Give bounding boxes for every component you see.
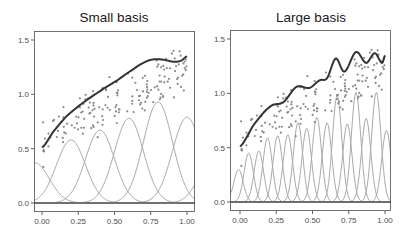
data-point	[383, 64, 385, 66]
data-point	[354, 84, 356, 86]
x-tick-label: 1.00	[179, 217, 195, 226]
data-point	[314, 93, 316, 95]
data-point	[367, 86, 369, 88]
basis-curve	[231, 151, 393, 202]
data-point	[162, 65, 164, 67]
data-point	[92, 124, 94, 126]
data-point	[365, 80, 367, 82]
data-point	[299, 123, 301, 125]
x-tick-label: 0.75	[341, 216, 357, 225]
data-point	[114, 115, 116, 117]
panel-border	[231, 31, 391, 211]
data-point	[260, 105, 262, 107]
data-point	[295, 135, 297, 137]
x-tick-label: 0.00	[232, 216, 248, 225]
data-point	[355, 88, 357, 90]
data-point	[307, 108, 309, 110]
data-point	[296, 105, 298, 107]
data-point	[116, 94, 118, 96]
data-point	[342, 100, 344, 102]
y-tick-label: 1.0	[18, 90, 30, 99]
panel-title: Small basis	[79, 10, 148, 25]
data-point	[383, 68, 385, 70]
y-tick-label: 0.0	[18, 199, 30, 208]
data-point	[251, 118, 253, 120]
data-point	[364, 66, 366, 68]
data-point	[361, 67, 363, 69]
data-point	[287, 100, 289, 102]
data-point	[185, 69, 187, 71]
data-point	[372, 69, 374, 71]
data-point	[132, 111, 134, 113]
data-point	[283, 93, 285, 95]
data-point	[82, 110, 84, 112]
data-point	[288, 126, 290, 128]
data-point	[78, 116, 80, 118]
data-point	[42, 166, 44, 168]
data-point	[245, 131, 247, 133]
data-point	[264, 122, 266, 124]
data-point	[136, 89, 138, 91]
data-point	[139, 103, 141, 105]
data-point	[379, 74, 381, 76]
data-point	[185, 65, 187, 67]
data-point	[181, 75, 183, 77]
data-point	[63, 126, 65, 128]
data-point	[354, 65, 356, 67]
panel-title: Large basis	[276, 10, 346, 25]
data-point	[159, 80, 161, 82]
x-tick-label: 0.25	[268, 216, 284, 225]
data-point	[182, 62, 184, 64]
data-point	[363, 57, 365, 59]
data-point	[168, 78, 170, 80]
data-point	[377, 49, 379, 51]
data-point	[88, 106, 90, 108]
data-point	[314, 80, 316, 82]
data-point	[144, 75, 146, 77]
data-point	[183, 89, 185, 91]
data-point	[162, 96, 164, 98]
data-point	[371, 95, 373, 97]
y-tick-label: 1.5	[18, 36, 30, 45]
data-point	[273, 115, 275, 117]
data-point	[62, 141, 64, 143]
y-tick-label: 1.0	[214, 89, 226, 98]
data-point	[374, 77, 376, 79]
data-point	[152, 101, 154, 103]
data-point	[312, 114, 314, 116]
data-point	[367, 66, 369, 68]
basis-curve	[33, 183, 195, 203]
data-point	[142, 90, 144, 92]
data-point	[174, 57, 176, 59]
data-point	[184, 67, 186, 69]
data-point	[58, 115, 60, 117]
data-point	[357, 73, 359, 75]
panel-border	[35, 32, 195, 212]
data-point	[146, 91, 148, 93]
panel-large-basis: Large basis 0.00.51.01.50.000.250.500.75…	[214, 10, 394, 225]
data-point	[382, 66, 384, 68]
data-point	[101, 124, 103, 126]
data-point	[315, 88, 317, 90]
data-point	[290, 103, 292, 105]
data-point	[80, 127, 82, 129]
data-point	[286, 105, 288, 107]
data-point	[254, 135, 256, 137]
data-point	[102, 108, 104, 110]
y-tick-label: 0.0	[214, 198, 226, 207]
data-point	[75, 116, 77, 118]
data-point	[358, 96, 360, 98]
data-point	[369, 52, 371, 54]
data-point	[173, 50, 175, 52]
figure: Small basis 0.00.51.01.50.000.250.500.75…	[0, 0, 408, 237]
data-point	[163, 75, 165, 77]
data-point	[93, 115, 95, 117]
data-point	[73, 127, 75, 129]
data-point	[138, 95, 140, 97]
data-point	[89, 101, 91, 103]
data-point	[93, 108, 95, 110]
data-point	[169, 67, 171, 69]
data-point	[176, 78, 178, 80]
data-point	[42, 121, 44, 123]
data-point	[353, 59, 355, 61]
